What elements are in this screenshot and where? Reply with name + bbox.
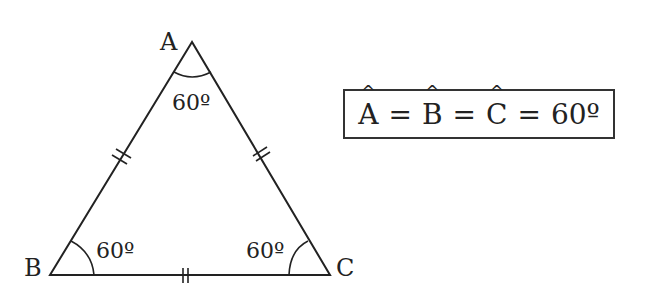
equal-angles-formula-box: A = B = C = 60º xyxy=(343,89,615,139)
angle-arc-b xyxy=(71,241,94,275)
angle-value: 60º xyxy=(551,98,600,131)
vertex-label-c: C xyxy=(336,256,354,280)
angle-arc-a xyxy=(174,72,211,77)
angle-label-c: 60º xyxy=(246,240,284,262)
angle-a-hat: A xyxy=(358,98,378,131)
angle-b-hat: B xyxy=(422,98,443,131)
equals-sign: = xyxy=(389,98,412,131)
equals-sign: = xyxy=(517,98,540,131)
equals-sign: = xyxy=(453,98,476,131)
angle-label-b: 60º xyxy=(96,240,134,262)
angle-arc-c xyxy=(289,241,308,275)
vertex-label-b: B xyxy=(24,256,42,280)
angle-c-hat: C xyxy=(486,98,507,131)
angle-label-a: 60º xyxy=(172,92,210,114)
vertex-label-a: A xyxy=(160,30,177,54)
